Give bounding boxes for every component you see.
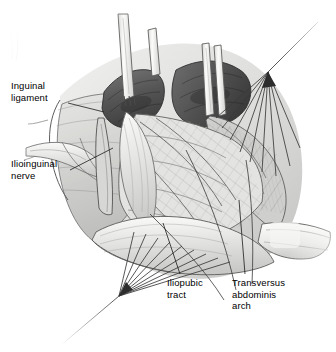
label-inguinal-ligament: Inguinal ligament: [11, 80, 48, 103]
label-iliopubic-tract: Iliopubic tract: [167, 277, 203, 300]
illustration-figure: Inguinal ligament Ilioinguinal nerve Ili…: [0, 0, 336, 352]
label-transversus-abdominis-arch: Transversus abdominis arch: [232, 277, 285, 312]
label-ilioinguinal-nerve: Ilioinguinal nerve: [11, 158, 57, 181]
